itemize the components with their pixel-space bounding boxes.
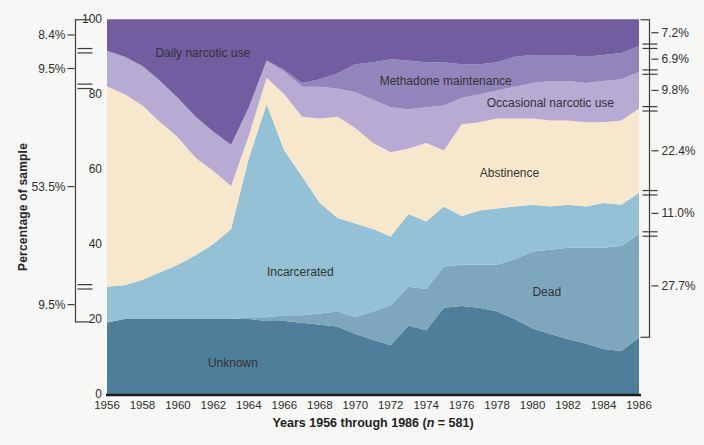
x-tick-1972: 1972 [378,399,404,411]
x-tick-1960: 1960 [165,399,191,411]
x-tick-1976: 1976 [449,399,475,411]
x-tick-1962: 1962 [201,399,227,411]
annotation-daily-narcotic-use: Daily narcotic use [155,46,250,60]
right-bracket-label-1: 6.9% [662,52,690,66]
left-bracket-label-1: 9.5% [38,62,66,76]
annotation-incarcerated: Incarcerated [267,265,334,279]
x-tick-1978: 1978 [484,399,510,411]
right-bracket-label-0: 7.2% [662,26,690,40]
right-bracket-label-2: 9.8% [662,83,690,97]
x-tick-1966: 1966 [272,399,298,411]
left-bracket-label-0: 8.4% [38,28,66,42]
chart-canvas: 0204060801001956195819601962196419661968… [0,0,704,445]
x-tick-1980: 1980 [520,399,546,411]
y-tick-40: 40 [89,237,103,251]
y-tick-20: 20 [89,312,103,326]
x-tick-1986: 1986 [626,399,652,411]
x-axis-title-prefix: Years 1956 through 1986 ( [272,416,426,430]
x-tick-1974: 1974 [413,399,439,411]
figure-stacked-area-chart: 0204060801001956195819601962196419661968… [0,0,704,445]
y-tick-80: 80 [89,87,103,101]
x-axis-title: Years 1956 through 1986 (n = 581) [107,416,639,430]
left-bracket-label-2: 53.5% [31,180,65,194]
annotation-unknown: Unknown [208,356,258,370]
annotation-dead: Dead [532,285,561,299]
right-bracket-label-4: 11.0% [662,206,695,220]
left-bracket-label-3: 9.5% [38,298,66,312]
x-tick-1984: 1984 [591,399,617,411]
x-tick-1958: 1958 [130,399,156,411]
x-tick-1970: 1970 [342,399,368,411]
right-bracket-label-3: 22.4% [662,144,696,158]
x-tick-1956: 1956 [94,399,120,411]
y-tick-60: 60 [89,162,103,176]
annotation-abstinence: Abstinence [480,166,540,180]
x-tick-1968: 1968 [307,399,333,411]
y-axis-title: Percentage of sample [16,107,32,307]
annotation-occasional-narcotic-use: Occasional narcotic use [487,96,615,110]
x-axis-title-suffix: = 581) [434,416,473,430]
x-tick-1964: 1964 [236,399,262,411]
right-bracket-label-5: 27.7% [662,279,696,293]
x-tick-1982: 1982 [555,399,581,411]
annotation-methadone-maintenance: Methadone maintenance [380,74,512,88]
